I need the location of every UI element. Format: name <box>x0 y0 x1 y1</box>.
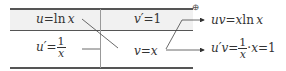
x-variable: x <box>256 13 263 27</box>
result-uprime-v: u′v=1x·x=1 <box>211 37 276 60</box>
ln-function: ln <box>242 13 254 27</box>
diagonal-u-to-v-line <box>82 19 118 48</box>
fraction: 1x <box>238 37 247 60</box>
equals-sign: = <box>228 41 238 55</box>
integration-by-parts-diagram: u=ln x v′=1 u′=1x v=x ⊕ uv=xln x u′v=1x·… <box>0 0 286 71</box>
result-uv: uv=xln x <box>211 13 263 27</box>
plus-sign-circle-icon: ⊕ <box>192 2 200 12</box>
uv-symbol: uv <box>211 13 226 27</box>
uprime-v-symbol: u′v <box>211 41 228 55</box>
x-variable: x <box>251 41 258 55</box>
denominator: x <box>238 49 247 60</box>
arrow-to-uv <box>166 20 204 49</box>
value-one: 1 <box>268 41 276 55</box>
equals-sign: = <box>226 13 236 27</box>
equals-sign: = <box>258 41 268 55</box>
